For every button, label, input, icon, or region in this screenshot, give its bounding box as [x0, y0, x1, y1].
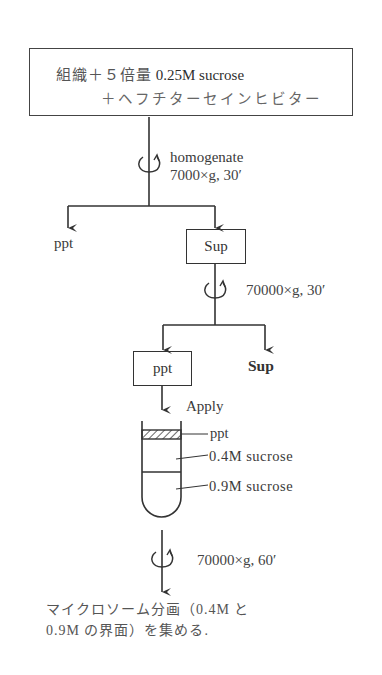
branch-1	[68, 206, 215, 228]
start-box-line1: 組織＋５倍量 0.25M sucrose	[56, 63, 244, 84]
result-line2: 0.9M の界面）を集める.	[46, 624, 209, 638]
sup-box-label: Sup	[204, 238, 227, 255]
ppt-box-label: ppt	[153, 360, 172, 377]
centrifuge-tube	[142, 421, 208, 517]
apply-label: Apply	[186, 399, 224, 414]
homogenate-label: homogenate	[170, 150, 243, 165]
tube-layer-04m-label: 0.4M sucrose	[209, 449, 293, 464]
step2-condition: 70000×g, 30′	[246, 283, 325, 298]
branch-2	[163, 325, 265, 350]
step3-condition: 70000×g, 60′	[197, 553, 276, 568]
result-line1: マイクロソーム分画（0.4M と	[46, 603, 249, 617]
step1-ppt-label: ppt	[54, 236, 73, 251]
tube-layer-09m-label: 0.9M sucrose	[209, 479, 293, 494]
start-box-line1-lat: 0.25M sucrose	[152, 67, 244, 83]
step2-sup-label: Sup	[248, 358, 274, 374]
start-box: 組織＋５倍量 0.25M sucrose ＋ヘフチターセインヒビター	[29, 48, 353, 116]
sup-box: Sup	[186, 229, 246, 264]
start-box-line2: ＋ヘフチターセインヒビター	[101, 87, 322, 108]
start-box-line1-jp: 組織＋５倍量	[56, 67, 152, 83]
step1-condition: 7000×g, 30′	[170, 168, 242, 183]
ppt-box: ppt	[133, 351, 192, 386]
tube-layer-ppt-label: ppt	[210, 426, 229, 441]
